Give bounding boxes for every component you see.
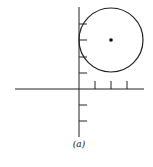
axes: [15, 7, 144, 137]
circle-center-point: [109, 38, 113, 42]
figure-caption: (a): [0, 139, 153, 149]
